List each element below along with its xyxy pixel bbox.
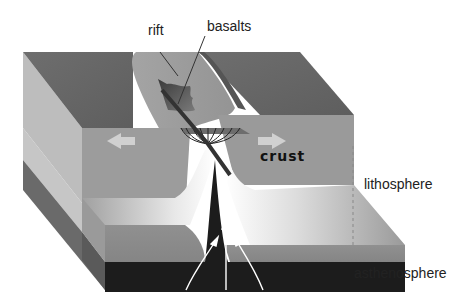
upwelling-arrowhead-right (233, 237, 241, 246)
upwelling-arrowhead-center (222, 220, 230, 229)
label-asthenosphere: asthenosphere (354, 265, 447, 281)
rift-block-diagram (0, 0, 460, 307)
label-rift: rift (148, 22, 164, 38)
label-crust: crust (260, 148, 305, 164)
label-lithosphere: lithosphere (364, 176, 433, 192)
label-basalts: basalts (207, 18, 251, 34)
